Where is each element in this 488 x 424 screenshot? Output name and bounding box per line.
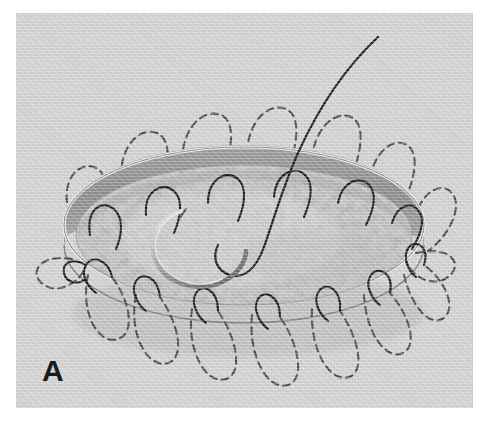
annuloplasty-scene (16, 13, 473, 408)
photograph-plate: A (16, 13, 473, 408)
figure-root: A (0, 0, 488, 424)
panel-letter: A (42, 356, 64, 386)
